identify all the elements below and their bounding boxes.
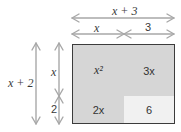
cell-6: 6 xyxy=(124,96,175,124)
cell-label: 6 xyxy=(146,104,152,116)
cell-3x: 3x xyxy=(124,44,175,97)
left-2-label: 2 xyxy=(51,104,57,115)
cell-label: x² xyxy=(94,63,103,78)
cell-label: 3x xyxy=(143,65,155,77)
left-total-label: x + 2 xyxy=(8,77,33,89)
area-model-diagram: x² 3x 2x 6 x + 3 x 3 x + 2 x 2 xyxy=(0,0,181,132)
left-x-label: x xyxy=(51,66,56,78)
top-total-label: x + 3 xyxy=(112,5,137,17)
cell-x-squared: x² xyxy=(72,44,125,97)
top-3-label: 3 xyxy=(145,22,151,33)
cell-label: 2x xyxy=(93,104,105,116)
cell-2x: 2x xyxy=(72,96,125,124)
top-x-label: x xyxy=(94,22,99,34)
